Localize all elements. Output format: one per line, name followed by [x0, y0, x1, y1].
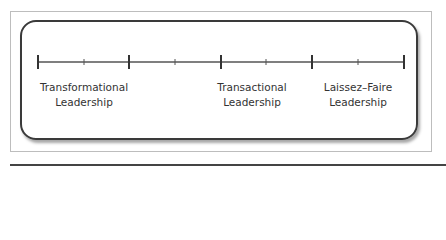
label-line: Leadership: [192, 95, 312, 110]
label-line: Transformational: [24, 80, 144, 95]
label-line: Laissez–Faire: [298, 80, 418, 95]
label-transformational: Transformational Leadership: [24, 80, 144, 110]
label-transactional: Transactional Leadership: [192, 80, 312, 110]
bottom-divider: [10, 164, 446, 166]
label-line: Leadership: [24, 95, 144, 110]
label-laissez-faire: Laissez–Faire Leadership: [298, 80, 418, 110]
label-line: Transactional: [192, 80, 312, 95]
label-line: Leadership: [298, 95, 418, 110]
